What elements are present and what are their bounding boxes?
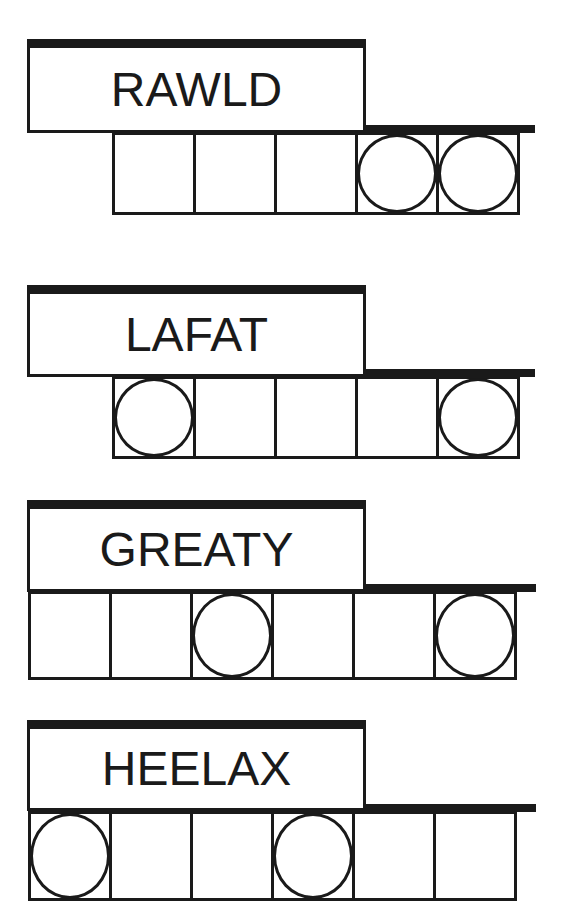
- circle-icon: [192, 593, 272, 678]
- answer-cell[interactable]: [271, 591, 355, 680]
- answer-cell[interactable]: [109, 811, 193, 901]
- answer-cell[interactable]: [28, 591, 112, 680]
- answer-cells: [28, 591, 517, 680]
- scrambled-word: LAFAT: [125, 307, 268, 362]
- circle-icon: [30, 813, 110, 899]
- scrambled-word: GREATY: [100, 522, 294, 577]
- answer-cell[interactable]: [352, 591, 436, 680]
- circle-icon: [114, 378, 194, 457]
- scrambled-word-box: RAWLD: [27, 39, 366, 133]
- scrambled-word-box: HEELAX: [27, 720, 366, 811]
- answer-cell[interactable]: [433, 811, 517, 901]
- circle-icon: [273, 813, 353, 899]
- answer-cell[interactable]: [190, 811, 274, 901]
- answer-cell[interactable]: [109, 591, 193, 680]
- answer-cell-circled[interactable]: [271, 811, 355, 901]
- answer-cell-circled[interactable]: [28, 811, 112, 901]
- answer-cell-circled[interactable]: [190, 591, 274, 680]
- answer-cell[interactable]: [193, 376, 277, 459]
- circle-icon: [438, 378, 518, 457]
- answer-cell[interactable]: [274, 376, 358, 459]
- answer-cells: [112, 376, 520, 459]
- answer-cells: [28, 811, 517, 901]
- answer-cell-circled[interactable]: [436, 132, 520, 215]
- circle-icon: [438, 134, 518, 213]
- answer-cell[interactable]: [355, 376, 439, 459]
- answer-cell-circled[interactable]: [112, 376, 196, 459]
- scrambled-word: HEELAX: [102, 741, 291, 796]
- scrambled-word: RAWLD: [111, 62, 283, 117]
- answer-cell[interactable]: [193, 132, 277, 215]
- answer-cell-circled[interactable]: [355, 132, 439, 215]
- circle-icon: [435, 593, 515, 678]
- circle-icon: [357, 134, 437, 213]
- scrambled-word-box: LAFAT: [27, 285, 366, 377]
- answer-cell-circled[interactable]: [436, 376, 520, 459]
- answer-cell[interactable]: [112, 132, 196, 215]
- answer-cell-circled[interactable]: [433, 591, 517, 680]
- answer-cell[interactable]: [352, 811, 436, 901]
- answer-cells: [112, 132, 520, 215]
- answer-cell[interactable]: [274, 132, 358, 215]
- scrambled-word-box: GREATY: [27, 500, 366, 592]
